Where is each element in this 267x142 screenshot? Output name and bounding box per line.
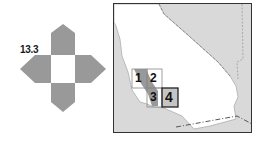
locator-map: 1 2 3 4 [113, 3, 252, 133]
california-outline [114, 4, 252, 133]
navigator-arrows [0, 0, 110, 142]
quadrangle-2-label[interactable]: 2 [150, 71, 157, 85]
east-arrow-icon[interactable] [75, 55, 106, 83]
current-sheet-label: 13.3 [20, 44, 38, 55]
quadrangle-4-label[interactable]: 4 [165, 89, 173, 105]
current-sheet-cell [51, 55, 75, 83]
sheet-navigator: 13.3 [0, 0, 110, 142]
quadrangle-1-label[interactable]: 1 [135, 71, 142, 85]
california-land [114, 4, 238, 129]
north-arrow-icon[interactable] [51, 24, 75, 44]
nevada-border [237, 4, 243, 79]
south-arrow-icon[interactable] [51, 83, 75, 112]
quadrangle-3-label[interactable]: 3 [150, 90, 157, 104]
west-arrow-icon[interactable] [20, 55, 51, 83]
north-arrow-base [51, 44, 75, 55]
